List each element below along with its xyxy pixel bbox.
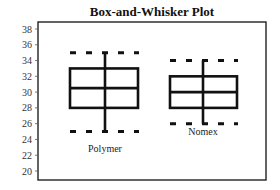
y-tick-label: 28 <box>22 102 32 113</box>
y-tick-label: 20 <box>22 166 32 177</box>
category-label: Nomex <box>188 126 217 137</box>
y-tick-label: 24 <box>22 134 32 145</box>
y-tick-label: 32 <box>22 71 32 82</box>
y-tick-label: 30 <box>22 87 32 98</box>
y-tick-label: 36 <box>22 39 32 50</box>
y-tick-label: 38 <box>22 24 32 35</box>
y-tick-label: 34 <box>22 55 32 66</box>
y-tick-label: 26 <box>22 118 32 129</box>
y-tick-label: 22 <box>22 150 32 161</box>
category-label: Polymer <box>88 143 123 154</box>
box-plot: 20222426283032343638PolymerNomex <box>0 0 280 190</box>
